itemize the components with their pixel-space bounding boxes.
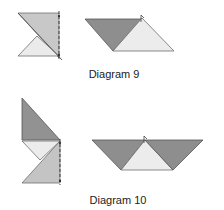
diagram-9-fold-dot-bottom bbox=[58, 54, 60, 56]
diagram-10-right-figure bbox=[92, 136, 203, 170]
diagram-9-caption: Diagram 9 bbox=[54, 68, 174, 80]
diagram-9-left-figure bbox=[18, 11, 62, 61]
diagram-10-top-dark-triangle bbox=[22, 98, 60, 140]
diagram-10-fold-dot-top bbox=[59, 142, 61, 144]
diagram-9-fold-dot-top bbox=[58, 15, 60, 17]
diagram-10-left-figure bbox=[22, 98, 61, 185]
diagram-10-caption: Diagram 10 bbox=[58, 194, 178, 206]
diagram-9-right-figure bbox=[85, 15, 174, 51]
origami-diagrams-canvas bbox=[0, 0, 224, 210]
diagram-10-fold-dot-bottom bbox=[59, 180, 61, 182]
